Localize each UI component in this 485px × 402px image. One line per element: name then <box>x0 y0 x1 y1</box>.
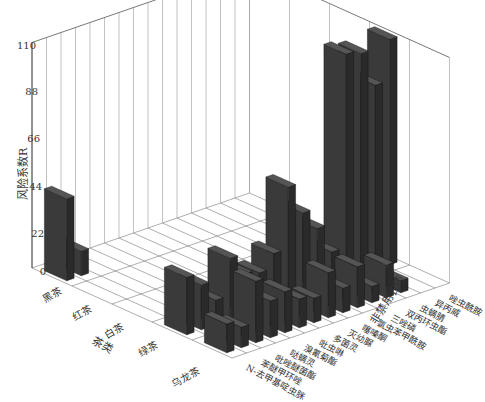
bar <box>164 265 194 335</box>
y-tick-66: 66 <box>16 133 40 144</box>
y-tick-110: 110 <box>12 40 36 51</box>
bar <box>44 186 74 281</box>
y-axis-label: 风险系数R <box>14 148 30 200</box>
bars <box>44 27 408 353</box>
y-tick-88: 88 <box>14 86 38 97</box>
y-tick-0: 0 <box>22 266 46 277</box>
y-tick-22: 22 <box>20 228 44 239</box>
bar <box>324 42 354 280</box>
